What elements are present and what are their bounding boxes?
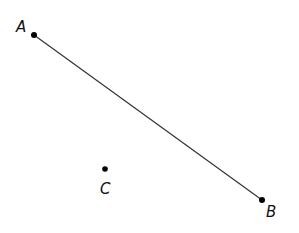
point-c bbox=[102, 166, 108, 172]
segment-ab bbox=[34, 35, 262, 200]
point-a bbox=[31, 32, 37, 38]
label-a: A bbox=[16, 20, 26, 35]
point-b bbox=[259, 197, 265, 203]
label-c: C bbox=[100, 182, 110, 197]
label-b: B bbox=[266, 205, 276, 220]
diagram-canvas bbox=[0, 0, 299, 233]
